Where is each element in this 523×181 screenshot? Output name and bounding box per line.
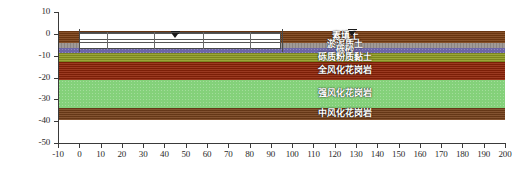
x-tick-mark (377, 144, 378, 148)
y-tick-mark (54, 78, 58, 79)
soil-layer-hatch (58, 53, 505, 62)
y-tick-label: -10 (16, 50, 50, 60)
plot-area: 素填土淤泥质土砾砂砾质粉质黏土全风化花岗岩强风化花岗岩中风化花岗岩 (58, 12, 505, 142)
x-tick-mark (484, 144, 485, 148)
soil-layer-label-moderately-weathered-granite: 中风化花岗岩 (318, 109, 372, 118)
geological-cross-section-figure: 素填土淤泥质土砾砂砾质粉质黏土全风化花岗岩强风化花岗岩中风化花岗岩 100-10… (0, 0, 523, 181)
x-tick-mark (250, 144, 251, 148)
y-tick-label: 0 (16, 28, 50, 38)
x-tick-mark (356, 144, 357, 148)
x-tick-mark (143, 144, 144, 148)
water-table-bar-top (171, 31, 180, 32)
x-tick-mark (101, 144, 102, 148)
retaining-wall-right (282, 29, 283, 52)
x-tick-mark (505, 144, 506, 148)
x-tick-mark (164, 144, 165, 148)
x-tick-mark (292, 144, 293, 148)
x-tick-mark (462, 144, 463, 148)
y-tick-mark (54, 56, 58, 57)
x-tick-mark (313, 144, 314, 148)
soil-layer-hatch (58, 62, 505, 79)
y-tick-mark (54, 34, 58, 35)
x-tick-mark (186, 144, 187, 148)
y-tick-label: -40 (16, 115, 50, 125)
x-tick-mark (399, 144, 400, 148)
water-table-triangle (172, 34, 178, 38)
support-column-4 (250, 32, 251, 49)
x-tick-mark (58, 144, 59, 148)
y-tick-mark (54, 12, 58, 13)
y-tick-label: 10 (16, 6, 50, 16)
y-tick-mark (54, 121, 58, 122)
soil-layer-label-gravelly-silty-clay: 砾质粉质黏土 (318, 53, 372, 62)
y-tick-label: -50 (16, 137, 50, 147)
support-strut-3 (79, 42, 281, 43)
x-axis-line (58, 143, 506, 144)
support-column-3 (203, 32, 204, 49)
soil-layer-moderately-weathered-granite (58, 108, 505, 120)
y-tick-label: -20 (16, 72, 50, 82)
soil-layer-hatch (58, 108, 505, 120)
water-table-triangle (349, 32, 355, 36)
y-tick-label: -30 (16, 93, 50, 103)
support-strut-2 (79, 39, 281, 40)
x-tick-mark (79, 144, 80, 148)
support-column-2 (154, 32, 155, 49)
x-tick-mark (441, 144, 442, 148)
soil-layer-gravelly-silty-clay (58, 53, 505, 62)
x-tick-mark (122, 144, 123, 148)
x-tick-mark (228, 144, 229, 148)
x-tick-mark (335, 144, 336, 148)
soil-layer-label-strongly-weathered-granite: 强风化花岗岩 (318, 89, 372, 98)
x-tick-label: 200 (490, 149, 520, 159)
support-strut-1 (79, 33, 281, 34)
y-tick-mark (54, 99, 58, 100)
soil-layer-hatch (58, 80, 505, 108)
y-axis-line (58, 12, 59, 143)
x-tick-mark (420, 144, 421, 148)
x-tick-mark (271, 144, 272, 148)
soil-layer-strongly-weathered-granite (58, 80, 505, 108)
retaining-wall-left (79, 29, 80, 52)
soil-layer-label-completely-weathered-granite: 全风化花岗岩 (318, 66, 372, 75)
water-table-bar-top (348, 29, 357, 30)
soil-layer-completely-weathered-granite (58, 62, 505, 79)
x-tick-mark (207, 144, 208, 148)
support-column-1 (107, 32, 108, 49)
